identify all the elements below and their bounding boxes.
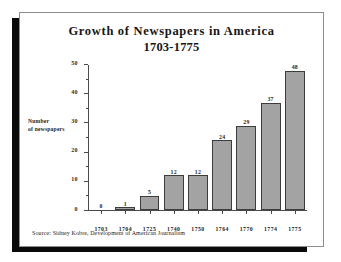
- x-tick: 1750: [186, 211, 210, 235]
- bar[interactable]: 37: [261, 103, 281, 210]
- y-tick-label-10: 10: [71, 176, 78, 182]
- bar-slot: 12: [162, 65, 186, 210]
- bar-value-label: 37: [267, 96, 273, 102]
- x-tick-mark: [125, 211, 126, 214]
- bar-slot: 12: [186, 65, 210, 210]
- bar-value-label: 12: [171, 169, 177, 175]
- y-tick-label-20: 20: [71, 147, 78, 153]
- bar-slot: 5: [137, 65, 161, 210]
- x-tick-label: 1774: [264, 226, 277, 232]
- bar[interactable]: 5: [140, 196, 160, 211]
- bar[interactable]: 12: [164, 175, 184, 210]
- x-tick-mark: [101, 211, 102, 214]
- bar-slot: 29: [234, 65, 258, 210]
- y-tick-0: 0: [84, 210, 88, 211]
- x-tick: 1770: [234, 211, 258, 235]
- x-tick: 1774: [259, 211, 283, 235]
- x-tick-label: 1775: [288, 226, 301, 232]
- x-tick-mark: [295, 211, 296, 214]
- bar-slot: 24: [210, 65, 234, 210]
- bar-value-label: 1: [124, 201, 127, 207]
- bar-value-label: 24: [219, 134, 225, 140]
- x-tick-label: 1764: [216, 226, 229, 232]
- y-tick-minor-35: [86, 108, 88, 109]
- x-tick-mark: [222, 211, 223, 214]
- y-tick-minor-5: [86, 195, 88, 196]
- bar[interactable]: 1: [115, 207, 135, 210]
- x-tick-mark: [271, 211, 272, 214]
- plot-wrapper: Number of newspapers 0 10 20 30: [20, 13, 323, 246]
- bar[interactable]: 29: [236, 126, 256, 210]
- x-tick-label: 1750: [191, 226, 204, 232]
- y-tick-label-0: 0: [75, 206, 78, 212]
- y-tick-minor-15: [86, 166, 88, 167]
- x-tick-mark: [174, 211, 175, 214]
- bar[interactable]: 24: [212, 140, 232, 210]
- x-tick-mark: [246, 211, 247, 214]
- y-tick-30: 30: [84, 122, 88, 123]
- bar-value-label: 29: [243, 119, 249, 125]
- x-tick-mark: [150, 211, 151, 214]
- y-tick-40: 40: [84, 93, 88, 94]
- bar-value-label: 5: [148, 189, 151, 195]
- bar-slot: 48: [283, 65, 307, 210]
- y-axis-label-line2: of newspapers: [28, 125, 86, 133]
- x-tick-label: 1770: [240, 226, 253, 232]
- chart-figure-card: Growth of Newspapers in America 1703-177…: [19, 12, 324, 247]
- y-tick-label-50: 50: [71, 60, 78, 66]
- y-tick-label-30: 30: [71, 118, 78, 124]
- bar-series: 0 1 5 12: [89, 65, 307, 210]
- y-tick-minor-25: [86, 137, 88, 138]
- bar-value-label: 12: [195, 169, 201, 175]
- screenshot-root: Growth of Newspapers in America 1703-177…: [0, 0, 341, 262]
- x-tick: 1775: [283, 211, 307, 235]
- y-tick-20: 20: [84, 152, 88, 153]
- y-tick-10: 10: [84, 181, 88, 182]
- bar-slot: 37: [259, 65, 283, 210]
- y-tick-label-40: 40: [71, 89, 78, 95]
- source-note: Source: Sidney Kobre, Development of Ame…: [32, 230, 185, 236]
- plot-area: 0 10 20 30 40 50: [88, 65, 307, 211]
- bar-slot: 0: [89, 65, 113, 210]
- y-tick-50: 50: [84, 64, 88, 65]
- bar-value-label: 48: [292, 64, 298, 70]
- bar-value-label: 0: [99, 203, 102, 209]
- bar-slot: 1: [113, 65, 137, 210]
- y-tick-minor-45: [86, 79, 88, 80]
- x-tick-mark: [198, 211, 199, 214]
- bar[interactable]: 12: [188, 175, 208, 210]
- x-tick: 1764: [210, 211, 234, 235]
- bar[interactable]: 48: [285, 71, 305, 210]
